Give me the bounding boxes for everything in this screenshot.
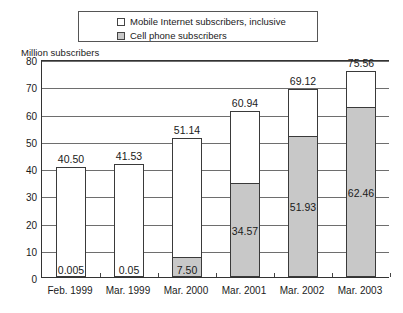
gridline <box>42 88 389 89</box>
y-axis-tick-label: 20 <box>26 219 37 230</box>
y-axis-tick-label: 40 <box>26 165 37 176</box>
y-axis-tick-label: 80 <box>26 56 37 67</box>
x-axis-tick <box>274 273 275 277</box>
gridline <box>42 197 389 198</box>
y-axis-tick-label: 70 <box>26 83 37 94</box>
legend-label-mobile-internet: Mobile Internet subscribers, inclusive <box>130 16 286 27</box>
x-axis-label: Mar. 2000 <box>164 285 208 296</box>
bar-total-label: 40.50 <box>58 153 84 165</box>
y-axis-tick-label: 30 <box>26 192 37 203</box>
x-axis-tick <box>158 273 159 277</box>
gridline <box>42 225 389 226</box>
x-axis-label: Mar. 1999 <box>106 285 150 296</box>
legend-label-cell-phone: Cell phone subscribers <box>130 30 227 41</box>
gridline <box>42 143 389 144</box>
x-axis-tick <box>216 273 217 277</box>
y-axis-tick-label: 50 <box>26 137 37 148</box>
x-axis-tick <box>100 273 101 277</box>
plot-area: 0102030405060708040.500.00541.530.0551.1… <box>42 61 389 277</box>
bar-total-label: 51.14 <box>174 124 200 136</box>
legend-item-mobile-internet: Mobile Internet subscribers, inclusive <box>117 15 317 28</box>
bar-value-label-cell-phone: 7.50 <box>177 264 197 276</box>
x-axis-label: Feb. 1999 <box>47 285 92 296</box>
x-axis-label: Mar. 2001 <box>222 285 266 296</box>
bar-mar-2000[interactable]: 51.147.50 <box>172 138 202 277</box>
gridline <box>42 116 389 117</box>
bar-segment-mobile-internet[interactable] <box>114 164 144 277</box>
x-axis-labels: Feb. 1999Mar. 1999Mar. 2000Mar. 2001Mar.… <box>41 285 389 301</box>
bar-total-label: 75.56 <box>348 57 374 69</box>
x-axis-label: Mar. 2002 <box>280 285 324 296</box>
bar-value-label-cell-phone: 0.05 <box>119 264 139 276</box>
y-axis-tick-label: 10 <box>26 246 37 257</box>
bar-feb-1999[interactable]: 40.500.005 <box>56 167 86 277</box>
bar-value-label-cell-phone: 34.57 <box>232 225 258 237</box>
x-axis-tick <box>332 273 333 277</box>
x-axis-tick <box>390 273 391 277</box>
bar-total-label: 41.53 <box>116 150 142 162</box>
bar-total-label: 60.94 <box>232 97 258 109</box>
bar-value-label-cell-phone: 51.93 <box>290 201 316 213</box>
gridline <box>42 61 389 62</box>
x-axis-label: Mar. 2003 <box>338 285 382 296</box>
chart-legend: Mobile Internet subscribers, inclusive C… <box>78 11 318 42</box>
bar-total-label: 69.12 <box>290 75 316 87</box>
bar-value-label-cell-phone: 0.005 <box>58 264 84 276</box>
legend-swatch-cell-phone-icon <box>117 32 125 40</box>
bar-mar-1999[interactable]: 41.530.05 <box>114 164 144 277</box>
chart-plot-frame: 0102030405060708040.500.00541.530.0551.1… <box>41 60 389 278</box>
legend-item-cell-phone: Cell phone subscribers <box>117 29 317 42</box>
bar-value-label-cell-phone: 62.46 <box>348 187 374 199</box>
bar-mar-2003[interactable]: 75.5662.46 <box>346 71 376 277</box>
gridline <box>42 170 389 171</box>
y-axis-tick-label: 0 <box>31 274 37 285</box>
gridline <box>42 252 389 253</box>
y-axis-tick-label: 60 <box>26 110 37 121</box>
bar-segment-mobile-internet[interactable] <box>56 167 86 277</box>
legend-swatch-mobile-internet-icon <box>117 18 125 26</box>
bar-mar-2002[interactable]: 69.1251.93 <box>288 89 318 277</box>
bar-mar-2001[interactable]: 60.9434.57 <box>230 111 260 277</box>
